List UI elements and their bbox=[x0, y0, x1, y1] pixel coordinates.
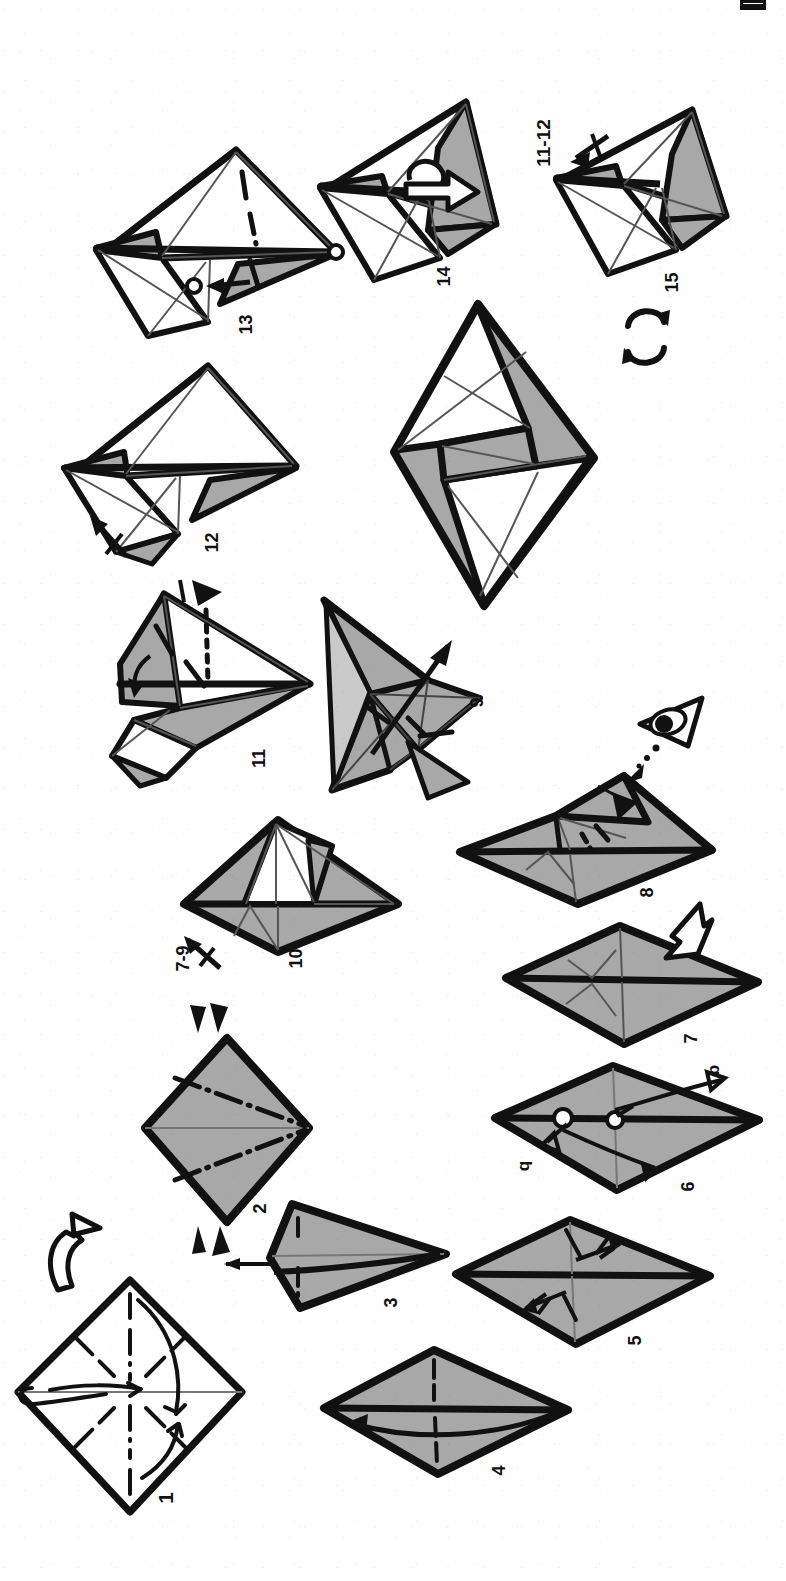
figure-step-14: 14 bbox=[288, 88, 518, 318]
turn-over-symbol bbox=[614, 300, 680, 376]
step-number-5: 5 bbox=[625, 1335, 646, 1345]
diagram-page: 1 2 bbox=[0, 0, 786, 1581]
step-number-12: 12 bbox=[202, 532, 223, 552]
step6-label-q: q bbox=[514, 1161, 534, 1171]
step-number-8: 8 bbox=[637, 887, 658, 897]
eye-icon bbox=[626, 688, 716, 788]
turn-over-arrow-step-1 bbox=[38, 1204, 138, 1294]
repeat-label-11-12: 11-12 bbox=[533, 119, 555, 167]
figure-step-6: 6 b q bbox=[487, 1058, 767, 1198]
solid-arrowhead-pair-bottom bbox=[184, 1224, 238, 1256]
step-number-6: 6 bbox=[678, 1181, 699, 1191]
step-number-10: 10 bbox=[286, 948, 307, 968]
repeat-arrow-step-15 bbox=[558, 130, 618, 174]
figure-step-1: 1 bbox=[10, 1272, 250, 1522]
step-number-7: 7 bbox=[681, 1033, 702, 1043]
step-number-9: 9 bbox=[467, 697, 488, 707]
repeat-label-7-9: 7-9 bbox=[173, 945, 194, 971]
figure-step-7: 7 bbox=[500, 920, 770, 1050]
figure-step-5: 5 bbox=[448, 1212, 718, 1352]
figure-final-model bbox=[388, 296, 618, 616]
page-edge-mark bbox=[740, 0, 766, 10]
solid-arrowhead-pair-top bbox=[184, 1003, 238, 1035]
step-number-15: 15 bbox=[662, 272, 683, 292]
step-number-3: 3 bbox=[381, 1297, 402, 1307]
step-number-13: 13 bbox=[236, 314, 257, 334]
step-number-11: 11 bbox=[249, 749, 270, 768]
step-number-1: 1 bbox=[154, 1492, 178, 1504]
step-number-4: 4 bbox=[489, 1465, 510, 1475]
step-number-14: 14 bbox=[434, 266, 455, 286]
figure-step-4: 4 bbox=[316, 1342, 576, 1482]
figure-step-3: 3 bbox=[264, 1196, 454, 1316]
repeat-arrow-step-12 bbox=[80, 512, 140, 562]
figure-step-11: 11 bbox=[110, 578, 340, 798]
step6-label-b: b bbox=[704, 1065, 724, 1075]
